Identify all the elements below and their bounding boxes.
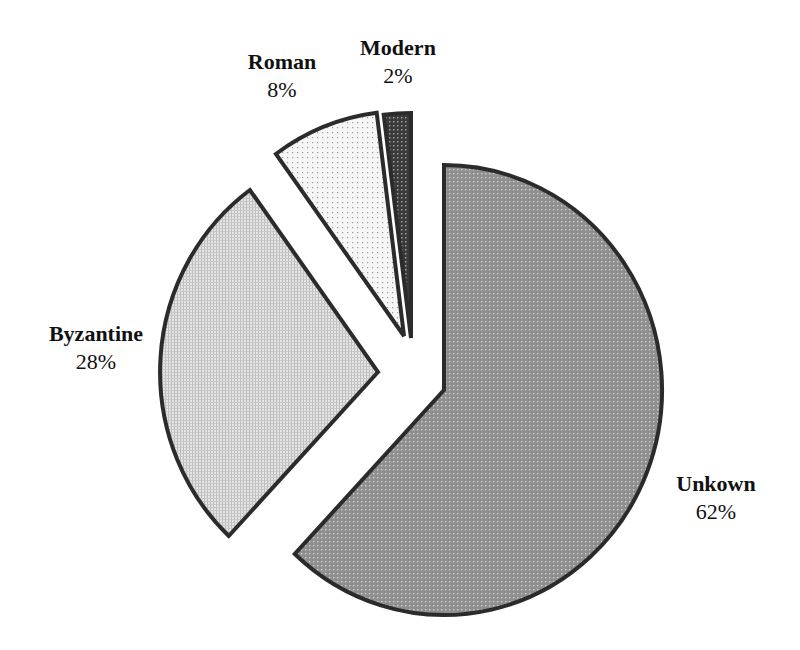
- slice-label-name: Modern: [348, 34, 448, 62]
- slice-label-name: Byzantine: [38, 320, 154, 348]
- slice-label-byzantine: Byzantine 28%: [38, 320, 154, 376]
- slice-label-modern: Modern 2%: [348, 34, 448, 90]
- slice-label-percent: 8%: [236, 76, 328, 104]
- slice-label-unkown: Unkown 62%: [668, 470, 764, 526]
- pie-slices: [160, 113, 662, 615]
- slice-label-name: Unkown: [668, 470, 764, 498]
- slice-label-percent: 28%: [38, 348, 154, 376]
- slice-label-roman: Roman 8%: [236, 48, 328, 104]
- slice-label-percent: 62%: [668, 498, 764, 526]
- slice-label-name: Roman: [236, 48, 328, 76]
- slice-label-percent: 2%: [348, 62, 448, 90]
